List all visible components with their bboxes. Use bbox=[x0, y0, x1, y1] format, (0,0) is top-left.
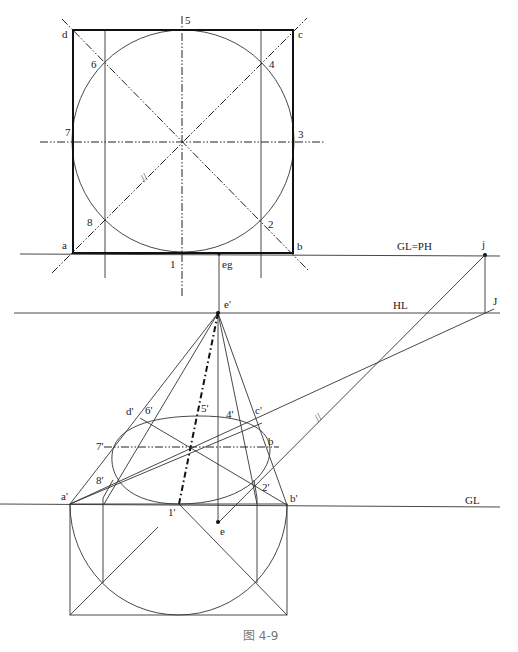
label-5: 5 bbox=[185, 14, 191, 26]
label-6-prime: 6' bbox=[145, 404, 153, 416]
ray-e-to-1-prime-dashed bbox=[179, 313, 218, 504]
label-4-prime: 4' bbox=[226, 408, 234, 420]
label-eg: eg bbox=[222, 258, 233, 270]
ray-e-to-a-prime bbox=[70, 313, 218, 504]
label-5-prime: 5' bbox=[201, 402, 209, 414]
right-parallel-mark: // bbox=[312, 410, 325, 423]
label-1-prime: 1' bbox=[168, 506, 176, 518]
lower-diagonal-left bbox=[70, 527, 158, 615]
label-b-perspective: b bbox=[268, 435, 274, 447]
label-8-prime: 8' bbox=[96, 474, 104, 486]
perspective-circle-diagram: // d c a b 5 6 4 7 3 8 2 1 eg GL=PH HL G… bbox=[0, 0, 518, 652]
label-e-prime: e' bbox=[224, 298, 231, 310]
perspective-diagonal-a-c bbox=[70, 423, 262, 504]
label-b: b bbox=[297, 240, 303, 252]
label-gl: GL bbox=[465, 494, 480, 506]
label-2-prime: 2' bbox=[262, 481, 270, 493]
perspective-view: e' e d' 6' 5' 4' c' 7' b 8' 2' a' b' 1' bbox=[61, 298, 298, 537]
label-d: d bbox=[62, 28, 68, 40]
label-8: 8 bbox=[87, 216, 93, 228]
label-e: e bbox=[220, 525, 225, 537]
label-4: 4 bbox=[269, 58, 275, 70]
lower-construction bbox=[70, 480, 287, 615]
label-J: J bbox=[493, 295, 498, 307]
plan-parallel-mark: // bbox=[138, 170, 151, 183]
line-gl bbox=[0, 504, 500, 507]
plan-view: // d c a b 5 6 4 7 3 8 2 1 eg bbox=[40, 14, 325, 296]
point-eg bbox=[218, 253, 221, 256]
label-d-prime: d' bbox=[126, 405, 134, 417]
label-a-prime: a' bbox=[61, 490, 68, 502]
label-c: c bbox=[298, 28, 303, 40]
plan-diagonal-db bbox=[62, 19, 308, 270]
line-j-to-e bbox=[219, 255, 485, 522]
label-c-prime: c' bbox=[255, 404, 262, 416]
figure-caption: 图 4-9 bbox=[243, 629, 278, 643]
label-7: 7 bbox=[65, 126, 71, 138]
label-2: 2 bbox=[268, 218, 274, 230]
label-7-prime: 7' bbox=[96, 440, 104, 452]
label-hl: HL bbox=[393, 299, 408, 311]
label-3: 3 bbox=[298, 128, 304, 140]
line-J-to-a-prime bbox=[70, 309, 494, 504]
label-b-prime: b' bbox=[290, 492, 298, 504]
point-e bbox=[216, 520, 220, 524]
line-gl-ph bbox=[20, 254, 500, 256]
plan-diagonal-ac bbox=[52, 18, 307, 273]
lower-diagonal-right bbox=[179, 504, 287, 615]
label-j: j bbox=[481, 238, 485, 250]
label-6: 6 bbox=[91, 58, 97, 70]
label-1: 1 bbox=[170, 258, 176, 270]
label-gl-ph: GL=PH bbox=[397, 240, 432, 252]
label-a: a bbox=[62, 239, 67, 251]
